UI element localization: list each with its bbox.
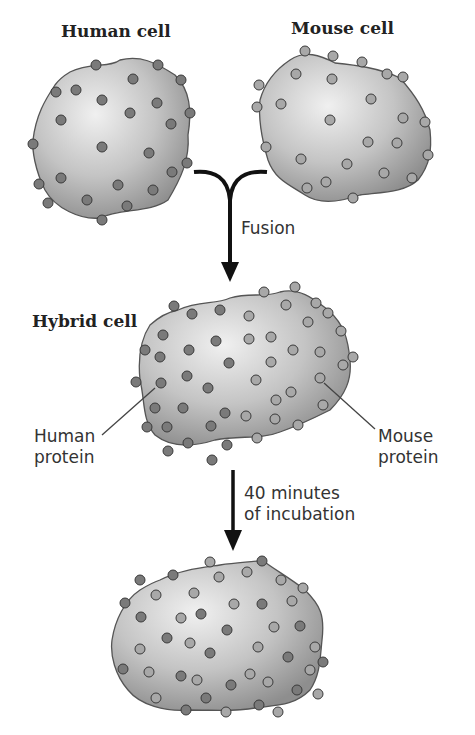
incubation-label: 40 minutes of incubation — [244, 483, 355, 525]
mouse-protein-label-line1: Mouse — [378, 426, 438, 447]
incubation-label-line2: of incubation — [244, 504, 355, 525]
human-protein-label-line1: Human — [34, 426, 95, 447]
mouse-cell — [252, 46, 433, 203]
incubation-arrow — [224, 470, 242, 551]
human-protein-label: Human protein — [34, 426, 95, 468]
human-cell-label: Human cell — [61, 21, 171, 41]
human-protein-label-line2: protein — [34, 447, 95, 468]
mouse-cell-label: Mouse cell — [291, 18, 394, 38]
diagram-canvas — [0, 0, 475, 735]
human-cell — [28, 58, 195, 225]
mouse-protein-label-line2: protein — [378, 447, 438, 468]
incubation-label-line1: 40 minutes — [244, 483, 355, 504]
final-mixed-cell — [112, 556, 328, 717]
hybrid-cell — [102, 282, 375, 465]
mouse-protein-label: Mouse protein — [378, 426, 438, 468]
hybrid-cell-label: Hybrid cell — [32, 311, 137, 331]
fusion-label: Fusion — [241, 218, 295, 239]
